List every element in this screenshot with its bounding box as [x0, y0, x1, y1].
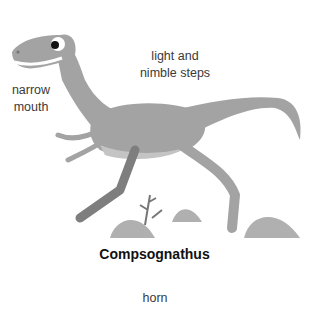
label-narrow-mouth: narrow mouth: [6, 82, 56, 116]
nostril: [16, 50, 19, 53]
plant: [140, 195, 162, 225]
label-horn: horn: [130, 290, 180, 307]
arm-back: [68, 140, 105, 160]
rock-3: [244, 217, 300, 238]
label-line: mouth: [6, 99, 56, 116]
leg-back: [80, 150, 135, 218]
rock-1: [110, 220, 155, 238]
label-line: narrow: [6, 82, 56, 99]
label-line: light and: [130, 48, 220, 65]
compsognathus-illustration: [0, 0, 309, 311]
pupil: [51, 41, 59, 49]
figure-title: Compsognathus: [0, 246, 309, 262]
label-line: nimble steps: [130, 65, 220, 82]
rock-2: [172, 209, 202, 222]
label-light-nimble-steps: light and nimble steps: [130, 48, 220, 82]
